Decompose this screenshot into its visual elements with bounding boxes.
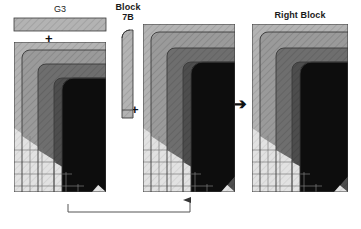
middle-block <box>143 24 235 192</box>
block-7b-strip <box>122 30 133 118</box>
right-block <box>252 24 348 192</box>
g3-bar <box>14 18 106 31</box>
feedback-connector <box>68 200 190 212</box>
diagram-vector-layer <box>0 0 361 229</box>
left-block <box>14 42 106 192</box>
diagram-canvas: G3 Block 7B Right Block + + ➔ <box>0 0 361 229</box>
